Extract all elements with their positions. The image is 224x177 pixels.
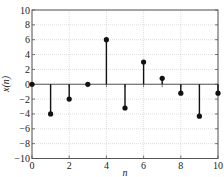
svg-text:10: 10 (213, 160, 223, 171)
svg-text:4: 4 (104, 160, 109, 171)
svg-text:10: 10 (20, 5, 30, 16)
svg-text:6: 6 (25, 34, 30, 45)
data-stems (29, 37, 220, 119)
svg-text:2: 2 (67, 160, 72, 171)
stem-plot: −10−8−6−4−20246810 0246810 x(n) n (0, 0, 224, 177)
svg-text:−10: −10 (14, 153, 30, 164)
svg-text:2: 2 (25, 64, 30, 75)
svg-text:8: 8 (25, 19, 30, 30)
svg-text:−6: −6 (19, 123, 30, 134)
svg-text:−8: −8 (19, 138, 30, 149)
x-axis-label: n (123, 167, 128, 177)
x-tick-labels: 0246810 (30, 84, 224, 170)
svg-text:−4: −4 (19, 108, 30, 119)
svg-text:8: 8 (178, 160, 183, 171)
y-axis-label: x(n) (0, 75, 12, 93)
svg-text:0: 0 (25, 79, 30, 90)
svg-text:−2: −2 (19, 94, 30, 105)
svg-text:0: 0 (30, 160, 35, 171)
svg-text:4: 4 (25, 49, 30, 60)
svg-text:6: 6 (141, 160, 146, 171)
